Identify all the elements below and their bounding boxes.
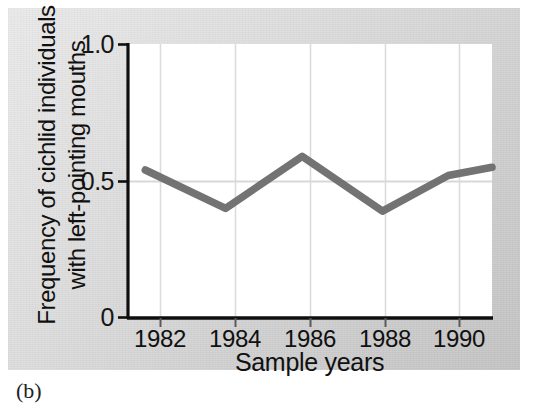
y-axis-title-line-1: Frequency of cichlid individuals: [32, 5, 62, 324]
figure-caption: (b): [16, 378, 42, 404]
figure-panel: 1.0 0.5 0 1982 1984 1986 1988 1990 Sampl…: [0, 0, 533, 415]
data-series-line: [145, 156, 492, 211]
y-axis: [118, 43, 128, 319]
y-axis-title-line-2: with left-pointing mouths: [62, 41, 92, 290]
y-axis-title: Frequency of cichlid individuals with le…: [27, 15, 97, 315]
x-axis-title: Sample years: [127, 348, 492, 377]
